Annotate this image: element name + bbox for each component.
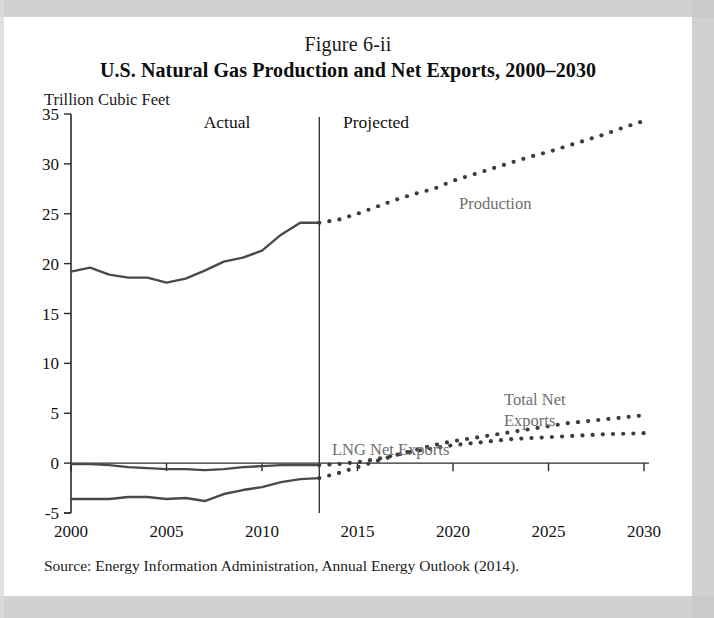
- figure-container: Figure 6-ii U.S. Natural Gas Production …: [4, 17, 692, 596]
- series-dot-projected-2: [499, 438, 503, 442]
- series-dot-projected-0: [463, 175, 467, 179]
- series-line-actual-1: [71, 478, 319, 501]
- series-dot-projected-0: [580, 139, 584, 143]
- series-dot-projected-0: [327, 219, 331, 223]
- chart-canvas: -505101520253035200020052010201520202025…: [4, 17, 692, 596]
- series-dot-projected-0: [444, 182, 448, 186]
- series-dot-projected-1: [337, 471, 341, 475]
- y-axis-tick-label: 35: [42, 105, 59, 124]
- series-dot-projected-2: [550, 435, 554, 439]
- series-dot-projected-0: [473, 172, 477, 176]
- x-axis-tick-label: 2030: [627, 522, 661, 541]
- series-dot-projected-0: [628, 123, 632, 127]
- series-dot-projected-0: [560, 145, 564, 149]
- series-dot-projected-2: [601, 432, 605, 436]
- series-dot-projected-1: [566, 421, 570, 425]
- series-dot-projected-1: [596, 418, 600, 422]
- series-dot-projected-0: [609, 130, 613, 134]
- series-dot-projected-1: [556, 423, 560, 427]
- series-dot-projected-1: [317, 476, 321, 480]
- scanned-page: Figure 6-ii U.S. Natural Gas Production …: [0, 0, 714, 618]
- series-dot-projected-2: [519, 437, 523, 441]
- series-dot-projected-0: [376, 204, 380, 208]
- series-dot-projected-0: [366, 208, 370, 212]
- x-axis-tick-label: 2005: [150, 522, 184, 541]
- series-dot-projected-1: [637, 414, 641, 418]
- series-dot-projected-0: [317, 221, 321, 225]
- scan-margin-bottom: [0, 596, 714, 618]
- projected-period-label: Projected: [343, 112, 409, 132]
- series-dot-projected-0: [386, 201, 390, 205]
- series-dot-projected-2: [489, 439, 493, 443]
- y-axis-tick-label: 5: [51, 404, 60, 423]
- y-axis-tick-label: 10: [42, 354, 59, 373]
- source-note: Source: Energy Information Administratio…: [44, 557, 519, 575]
- series-dot-projected-1: [455, 438, 459, 442]
- series-dot-projected-2: [479, 440, 483, 444]
- series-dot-projected-0: [434, 186, 438, 190]
- scan-margin-right: [692, 0, 714, 618]
- series-dot-projected-1: [366, 462, 370, 466]
- series-dot-projected-0: [599, 133, 603, 137]
- series-dot-projected-0: [512, 160, 516, 164]
- series-dot-projected-2: [338, 462, 342, 466]
- series-dot-projected-1: [465, 437, 469, 441]
- total-net-exports-series-label-line1: Total Net: [504, 390, 566, 409]
- series-dot-projected-0: [521, 157, 525, 161]
- series-dot-projected-0: [492, 166, 496, 170]
- series-dot-projected-2: [570, 434, 574, 438]
- series-dot-projected-1: [347, 468, 351, 472]
- series-dot-projected-0: [453, 178, 457, 182]
- series-dot-projected-2: [631, 431, 635, 435]
- x-axis-tick-label: 2025: [532, 522, 566, 541]
- series-dot-projected-2: [509, 437, 513, 441]
- series-dot-projected-2: [358, 460, 362, 464]
- series-dot-projected-2: [317, 463, 321, 467]
- series-dot-projected-2: [348, 461, 352, 465]
- series-dot-projected-1: [356, 465, 360, 469]
- y-axis-tick-label: 0: [51, 454, 60, 473]
- series-dot-projected-2: [641, 431, 645, 435]
- series-dot-projected-2: [458, 442, 462, 446]
- series-dot-projected-1: [485, 434, 489, 438]
- series-dot-projected-2: [580, 433, 584, 437]
- series-line-actual-2: [71, 464, 319, 470]
- series-dot-projected-1: [327, 473, 331, 477]
- y-axis-tick-label: 20: [42, 255, 59, 274]
- series-dot-projected-2: [611, 432, 615, 436]
- series-dot-projected-0: [482, 169, 486, 173]
- total-net-exports-series-label-line2: Exports: [504, 411, 555, 430]
- lng-net-exports-series-label: LNG Net Exports: [332, 440, 449, 459]
- series-dot-projected-2: [468, 441, 472, 445]
- production-series-label: Production: [459, 194, 531, 213]
- series-dot-projected-1: [616, 416, 620, 420]
- actual-period-label: Actual: [204, 112, 251, 132]
- series-dot-projected-0: [551, 148, 555, 152]
- series-dot-projected-2: [591, 433, 595, 437]
- x-axis-tick-label: 2015: [341, 522, 375, 541]
- series-dot-projected-0: [405, 194, 409, 198]
- series-dot-projected-1: [606, 417, 610, 421]
- series-dot-projected-0: [395, 197, 399, 201]
- x-axis-tick-label: 2020: [436, 522, 470, 541]
- series-dot-projected-1: [475, 435, 479, 439]
- y-axis-tick-label: 30: [42, 155, 59, 174]
- series-dot-projected-0: [347, 214, 351, 218]
- series-dot-projected-0: [357, 211, 361, 215]
- series-dot-projected-1: [627, 415, 631, 419]
- series-dot-projected-0: [502, 163, 506, 167]
- series-dot-projected-1: [495, 432, 499, 436]
- series-dot-projected-0: [541, 151, 545, 155]
- y-axis-tick-label: 15: [42, 305, 59, 324]
- series-dot-projected-0: [424, 189, 428, 193]
- series-dot-projected-0: [415, 191, 419, 195]
- series-dot-projected-2: [327, 462, 331, 466]
- series-dot-projected-2: [529, 436, 533, 440]
- series-dot-projected-0: [638, 120, 642, 124]
- y-axis-tick-label: 25: [42, 205, 59, 224]
- series-line-actual-0: [71, 223, 319, 283]
- y-axis-tick-label: -5: [45, 504, 59, 523]
- series-dot-projected-1: [586, 419, 590, 423]
- series-dot-projected-0: [619, 126, 623, 130]
- series-dot-projected-2: [621, 432, 625, 436]
